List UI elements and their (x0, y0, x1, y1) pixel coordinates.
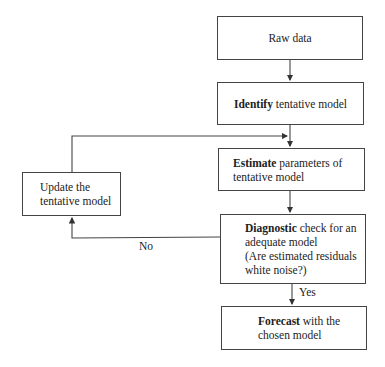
diagnostic-line4: white noise?) (245, 263, 365, 277)
update-node: Update the tentative model (22, 172, 121, 216)
identify-bold: Identify (234, 98, 273, 110)
estimate-bold: Estimate (233, 157, 276, 169)
update-line1: Update the (40, 180, 120, 194)
update-line2: tentative model (40, 194, 120, 208)
estimate-node: Estimate parameters of tentative model (218, 148, 365, 191)
diagnostic-node: Diagnostic check for an adequate model (… (220, 214, 366, 284)
yes-label: Yes (299, 286, 316, 298)
raw-data-node: Raw data (217, 16, 363, 60)
identify-node: Identify tentative model (217, 82, 364, 125)
estimate-line2: tentative model (233, 170, 364, 184)
no-label: No (139, 240, 153, 252)
estimate-line1: parameters of (276, 157, 342, 169)
diagnostic-bold: Diagnostic (245, 222, 297, 234)
raw-data-label: Raw data (268, 31, 311, 45)
forecast-node: Forecast with the chosen model (221, 306, 367, 350)
identify-text: tentative model (273, 98, 347, 110)
forecast-bold: Forecast (258, 315, 300, 327)
diagnostic-line1: check for an (297, 222, 357, 234)
forecast-line1: with the (300, 315, 340, 327)
diagnostic-line3: (Are estimated residuals (245, 249, 365, 263)
diagnostic-line2: adequate model (245, 235, 365, 249)
forecast-line2: chosen model (258, 328, 366, 342)
